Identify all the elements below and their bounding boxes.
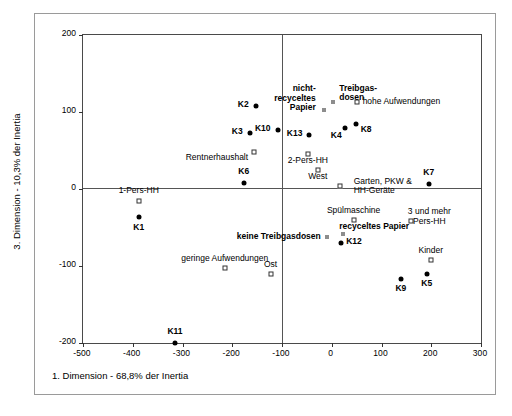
label-line: HH-Geräte (354, 186, 412, 195)
y-tick-label-text: 0 (71, 182, 76, 192)
y-tick-label-text: -200 (59, 336, 76, 346)
vertical-zero-axis (282, 35, 283, 343)
chart-root: 1. Dimension - 68,8% der Inertia 3. Dime… (0, 0, 512, 416)
label-treib1: Treibgas-dosen (339, 84, 377, 102)
label-k13: K13 (287, 129, 303, 138)
marker-ost (268, 271, 273, 276)
y-tick (79, 343, 83, 344)
marker-k4 (342, 126, 347, 131)
label-k2: K2 (238, 100, 249, 109)
label-recyc: recyceltes Papier (339, 222, 409, 231)
marker-k3 (247, 130, 252, 135)
x-tick (282, 343, 283, 347)
label-keinetreib: keine Treibgasdosen (237, 232, 321, 241)
x-tick (133, 343, 134, 347)
label-pers1: 1-Pers-HH (119, 186, 159, 195)
y-tick (79, 35, 83, 36)
marker-recyceltes-papier (341, 232, 345, 236)
marker-k12 (339, 240, 344, 245)
marker-1-pers-hh (136, 198, 141, 203)
y-tick-label-text: -100 (59, 259, 76, 269)
label-k7: K7 (423, 168, 434, 177)
x-tick (332, 343, 333, 347)
label-garten1: Garten, PKW &HH-Geräte (354, 177, 412, 195)
marker-k11 (173, 341, 178, 346)
x-tick (183, 343, 184, 347)
label-ost: Ost (264, 260, 277, 269)
x-tick-label: 300 (473, 348, 487, 358)
x-axis-title: 1. Dimension - 68,8% der Inertia (52, 370, 188, 381)
x-tick-label: -100 (272, 348, 289, 358)
marker-garten-pkw-hh-ger-te (337, 183, 342, 188)
marker-treibgasdosen (331, 100, 335, 104)
x-tick-label: 0 (328, 348, 333, 358)
label-nicht1: nicht-recyceltesPapier (274, 84, 316, 112)
label-k10: K10 (255, 124, 271, 133)
label-k6: K6 (238, 167, 249, 176)
label-k5: K5 (421, 279, 432, 288)
label-k4: K4 (331, 131, 342, 140)
x-tick-label: -400 (123, 348, 140, 358)
label-line: Papier (274, 103, 316, 112)
plot-area: K1K11K6K3K2K10K13K4K8K7K12K9K51-Pers-HHR… (82, 34, 482, 344)
label-geringe: geringe Aufwendungen (181, 254, 268, 263)
label-pers2: 2-Pers-HH (288, 156, 328, 165)
label-kinder: Kinder (418, 246, 443, 255)
x-tick (481, 343, 482, 347)
y-tick-label-text: 100 (62, 105, 76, 115)
label-rentner: Rentnerhaushalt (186, 153, 248, 162)
label-k3: K3 (232, 127, 243, 136)
y-tick-label-text: 200 (62, 28, 76, 38)
marker-keine-treibgasdosen (325, 235, 329, 239)
marker-k2 (253, 103, 258, 108)
y-tick (79, 266, 83, 267)
label-k8: K8 (361, 125, 372, 134)
label-west: West (308, 172, 327, 181)
x-tick (83, 343, 84, 347)
marker-k7 (426, 181, 431, 186)
y-tick (79, 189, 83, 190)
label-k1: K1 (133, 223, 144, 232)
marker-k9 (398, 277, 403, 282)
x-tick-label: 200 (423, 348, 437, 358)
marker-k13 (307, 133, 312, 138)
y-axis-title: 3. Dimension - 10,3% der Inertia (11, 32, 22, 332)
label-line: Pers-HH (408, 217, 451, 226)
marker-k8 (353, 122, 358, 127)
x-tick-label: -500 (73, 348, 90, 358)
marker-kinder (428, 257, 433, 262)
x-tick (232, 343, 233, 347)
y-tick (79, 112, 83, 113)
x-tick-label: -300 (173, 348, 190, 358)
marker-k1 (136, 215, 141, 220)
label-k12: K12 (346, 237, 362, 246)
label-spuel: Spülmaschine (327, 206, 380, 215)
x-tick-label: 100 (373, 348, 387, 358)
x-tick-label: -200 (223, 348, 240, 358)
x-tick (431, 343, 432, 347)
marker-k5 (424, 271, 429, 276)
label-k11: K11 (167, 327, 182, 336)
marker-rentnerhaushalt (252, 150, 257, 155)
x-tick (382, 343, 383, 347)
marker-k6 (241, 180, 246, 185)
marker-nicht-recyceltes-papier (322, 108, 326, 112)
marker-geringe-aufwendungen (222, 266, 227, 271)
label-line: dosen (339, 93, 377, 102)
label-k9: K9 (395, 284, 406, 293)
label-pers3a: 3 und mehrPers-HH (408, 207, 451, 225)
marker-k10 (275, 127, 280, 132)
